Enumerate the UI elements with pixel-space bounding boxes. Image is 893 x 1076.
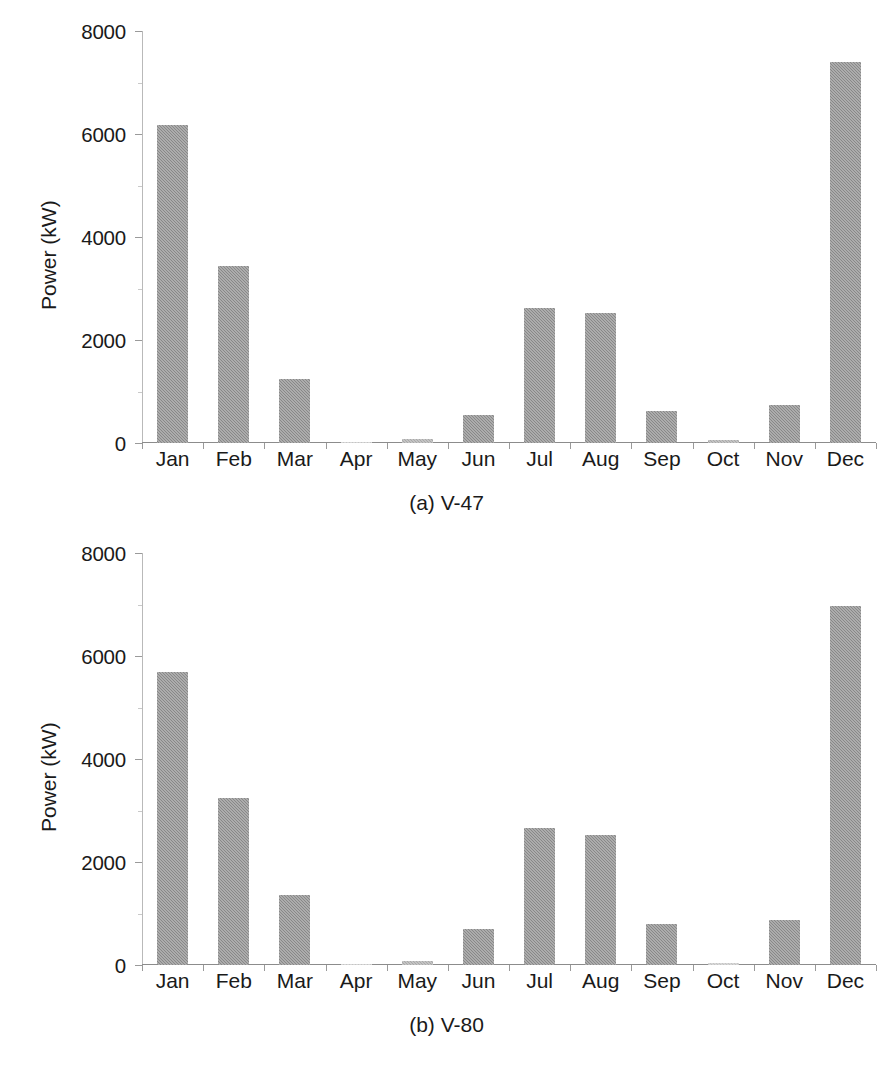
x-label-sep: Sep xyxy=(631,970,692,991)
x-label-feb: Feb xyxy=(203,448,264,469)
axes-v47: 80006000400020000 xyxy=(142,31,876,443)
x-label-dec: Dec xyxy=(815,970,876,991)
x-label-dec: Dec xyxy=(815,448,876,469)
panel-caption-v80: (b) V-80 xyxy=(0,1014,893,1035)
x-label-feb: Feb xyxy=(203,970,264,991)
x-label-mar: Mar xyxy=(264,448,325,469)
plot-area-v47: Power (kW) 80006000400020000 JanFebMarAp… xyxy=(0,0,893,470)
x-label-jul: Jul xyxy=(509,970,570,991)
x-label-jul: Jul xyxy=(509,448,570,469)
bar-nov xyxy=(769,405,800,443)
x-label-aug: Aug xyxy=(570,448,631,469)
bar-jun xyxy=(463,415,494,443)
bar-feb xyxy=(218,266,249,443)
y-tick-2000: 2000 xyxy=(135,340,142,341)
bar-nov xyxy=(769,920,800,965)
x-tick-labels-v80: JanFebMarAprMayJunJulAugSepOctNovDec xyxy=(142,970,876,1000)
bar-apr xyxy=(341,964,372,965)
plot-area-v80: Power (kW) 80006000400020000 JanFebMarAp… xyxy=(0,524,893,994)
x-label-oct: Oct xyxy=(693,448,754,469)
y-tick-label-2000: 2000 xyxy=(81,330,126,351)
y-axis-title-v47: Power (kW) xyxy=(38,200,59,310)
y-tick-6000: 6000 xyxy=(135,656,142,657)
y-tick-8000: 8000 xyxy=(135,553,142,554)
panel-caption-v47: (a) V-47 xyxy=(0,492,893,513)
x-label-nov: Nov xyxy=(754,970,815,991)
bar-jul xyxy=(524,308,555,443)
y-tick-2000: 2000 xyxy=(135,862,142,863)
x-label-apr: Apr xyxy=(326,970,387,991)
bar-group-v47 xyxy=(142,31,876,443)
bar-dec xyxy=(830,606,861,965)
bar-aug xyxy=(585,313,616,443)
x-label-may: May xyxy=(387,970,448,991)
bar-may xyxy=(402,439,433,443)
y-axis-title-v80: Power (kW) xyxy=(38,722,59,832)
bar-oct xyxy=(708,963,739,965)
bar-sep xyxy=(646,924,677,965)
bar-feb xyxy=(218,798,249,965)
chart-panel-v80: Power (kW) 80006000400020000 JanFebMarAp… xyxy=(0,524,893,1076)
x-label-apr: Apr xyxy=(326,448,387,469)
x-tick-12 xyxy=(876,965,877,971)
y-tick-label-4000: 4000 xyxy=(81,227,126,248)
y-tick-4000: 4000 xyxy=(135,237,142,238)
bar-oct xyxy=(708,440,739,443)
axes-v80: 80006000400020000 xyxy=(142,553,876,965)
bar-jul xyxy=(524,828,555,965)
y-tick-label-8000: 8000 xyxy=(81,21,126,42)
y-tick-label-6000: 6000 xyxy=(81,124,126,145)
bar-jan xyxy=(157,125,188,443)
bar-aug xyxy=(585,835,616,965)
bar-group-v80 xyxy=(142,553,876,965)
chart-panel-v47: Power (kW) 80006000400020000 JanFebMarAp… xyxy=(0,0,893,530)
y-tick-8000: 8000 xyxy=(135,31,142,32)
x-label-aug: Aug xyxy=(570,970,631,991)
y-tick-0: 0 xyxy=(135,443,142,444)
x-tick-12 xyxy=(876,443,877,449)
bar-sep xyxy=(646,411,677,443)
bar-dec xyxy=(830,62,861,443)
y-tick-0: 0 xyxy=(135,965,142,966)
x-tick-labels-v47: JanFebMarAprMayJunJulAugSepOctNovDec xyxy=(142,448,876,478)
bar-apr xyxy=(341,442,372,443)
bar-mar xyxy=(279,895,310,965)
y-tick-6000: 6000 xyxy=(135,134,142,135)
x-label-may: May xyxy=(387,448,448,469)
bar-may xyxy=(402,961,433,965)
x-label-sep: Sep xyxy=(631,448,692,469)
bar-jun xyxy=(463,929,494,965)
y-tick-4000: 4000 xyxy=(135,759,142,760)
x-label-jan: Jan xyxy=(142,448,203,469)
figure-page: { "chart_data": [ { "type": "bar", "id":… xyxy=(0,0,893,1076)
bar-jan xyxy=(157,672,188,965)
x-label-jun: Jun xyxy=(448,448,509,469)
x-label-oct: Oct xyxy=(693,970,754,991)
y-tick-label-8000: 8000 xyxy=(81,543,126,564)
y-tick-label-6000: 6000 xyxy=(81,646,126,667)
x-label-nov: Nov xyxy=(754,448,815,469)
bar-mar xyxy=(279,379,310,443)
y-tick-label-0: 0 xyxy=(115,433,126,454)
x-label-jun: Jun xyxy=(448,970,509,991)
y-tick-label-4000: 4000 xyxy=(81,749,126,770)
x-label-mar: Mar xyxy=(264,970,325,991)
y-tick-label-0: 0 xyxy=(115,955,126,976)
y-tick-label-2000: 2000 xyxy=(81,852,126,873)
x-label-jan: Jan xyxy=(142,970,203,991)
